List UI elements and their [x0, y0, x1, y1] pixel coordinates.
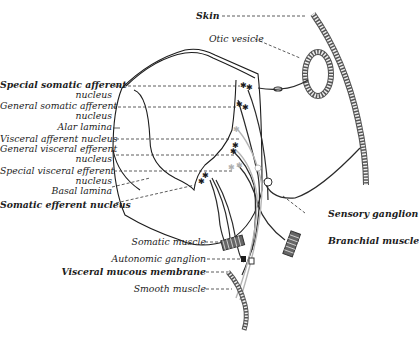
label-smooth-muscle: Smooth muscle: [0, 284, 206, 294]
central-canal: [134, 80, 236, 190]
label-sensory-ganglion: Sensory ganglion: [328, 209, 418, 219]
label-somatic-efferent: Somatic efferent nucleus: [0, 200, 114, 210]
svg-text:✱: ✱: [236, 161, 243, 170]
label-general-visceral-efferent-line2: nucleus: [0, 154, 112, 164]
label-basal-lamina: Basal lamina: [0, 186, 112, 196]
neural-tube-outline: [113, 49, 262, 245]
branchial-muscle-block: [283, 231, 301, 257]
svg-text:✱: ✱: [230, 147, 237, 156]
label-otic-vesicle: Otic vesicle: [209, 34, 264, 44]
label-somatic-muscle: Somatic muscle: [0, 237, 206, 247]
label-alar-lamina: Alar lamina: [0, 122, 112, 132]
label-special-somatic-afferent-line2: nucleus: [0, 90, 112, 100]
label-general-somatic-afferent-line2: nucleus: [0, 111, 112, 121]
svg-text:✱: ✱: [198, 177, 205, 186]
label-branchial-muscle: Branchial muscle: [328, 236, 419, 246]
svg-text:✱: ✱: [228, 163, 235, 172]
label-autonomic-ganglion: Autonomic ganglion: [0, 254, 206, 264]
svg-text:✱: ✱: [233, 125, 240, 134]
somatic-muscle-block: [221, 235, 245, 250]
label-skin: Skin: [196, 11, 219, 21]
skin-epithelium: [313, 14, 366, 185]
svg-text:✱: ✱: [246, 83, 253, 92]
label-visceral-mucous-membrane: Visceral mucous membrane: [0, 267, 206, 277]
svg-text:✱: ✱: [242, 103, 249, 112]
